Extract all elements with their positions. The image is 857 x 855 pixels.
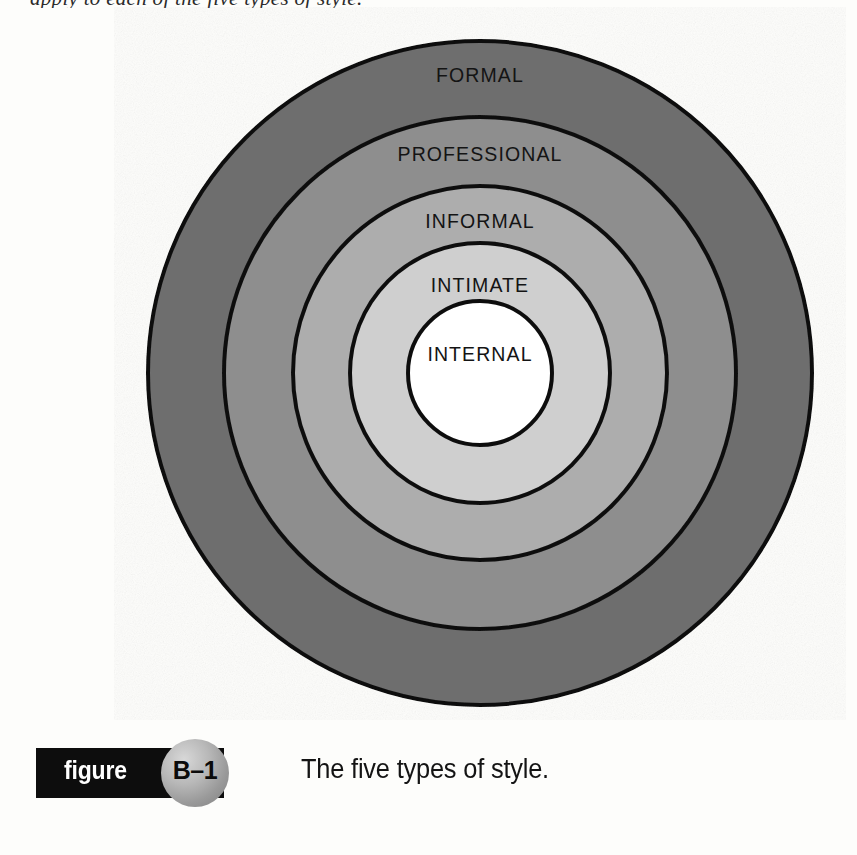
figure-number-text: B–1	[161, 756, 229, 785]
ring-label-formal: FORMAL	[436, 64, 524, 86]
figure-label-text: figure	[64, 756, 127, 785]
rings-svg: FORMAL PROFESSIONAL INFORMAL INTIMATE IN…	[0, 0, 857, 720]
figure-caption-text: The five types of style.	[301, 754, 549, 785]
figure-caption-row: figure B–1 The five types of style.	[36, 742, 826, 804]
concentric-style-diagram: FORMAL PROFESSIONAL INFORMAL INTIMATE IN…	[0, 0, 857, 720]
ring-label-internal: INTERNAL	[427, 343, 532, 365]
ring-label-informal: INFORMAL	[425, 210, 535, 232]
ring-internal	[408, 301, 552, 445]
ring-label-professional: PROFESSIONAL	[398, 143, 563, 165]
ring-label-intimate: INTIMATE	[431, 274, 529, 296]
